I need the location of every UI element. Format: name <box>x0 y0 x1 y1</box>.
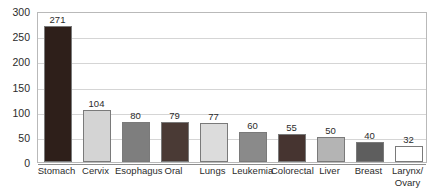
x-tick-label-line1: Stomach <box>38 165 76 176</box>
bar-group: 60 <box>239 13 267 162</box>
y-tick-label: 250 <box>12 32 30 43</box>
x-tick-label-line1: Liver <box>319 165 340 176</box>
bar-group: 40 <box>356 13 384 162</box>
x-tick-label: Cervix <box>76 165 115 177</box>
bar[interactable] <box>161 122 189 162</box>
x-tick-label: Leukemia <box>232 165 271 177</box>
y-tick-label: 150 <box>12 82 30 93</box>
y-tick-label: 100 <box>12 107 30 118</box>
y-tick-label: 200 <box>12 57 30 68</box>
bar-value-label: 50 <box>317 126 345 136</box>
x-tick-label: Colorectal <box>271 165 310 177</box>
bar-value-label: 80 <box>122 111 150 121</box>
x-tick-label: Lungs <box>193 165 232 177</box>
bar-chart: 300250200150100500 271104807977605550403… <box>0 0 445 196</box>
x-tick-label: Larynx/Ovary <box>388 165 427 188</box>
bar[interactable] <box>278 134 306 162</box>
x-tick-label-line1: Colorectal <box>271 165 314 176</box>
bar-value-label: 55 <box>278 123 306 133</box>
bar-group: 80 <box>122 13 150 162</box>
x-tick-label: Liver <box>310 165 349 177</box>
bar-group: 50 <box>317 13 345 162</box>
x-tick-label-line1: Cervix <box>82 165 109 176</box>
x-axis: StomachCervixEsophagusOralLungsLeukemiaC… <box>37 165 427 196</box>
x-tick-label-line1: Lungs <box>200 165 226 176</box>
x-tick-label-line1: Leukemia <box>232 165 273 176</box>
y-axis: 300250200150100500 <box>0 0 34 196</box>
bar-group: 77 <box>200 13 228 162</box>
bar-group: 271 <box>44 13 72 162</box>
bar[interactable] <box>395 146 423 162</box>
plot-area: 2711048079776055504032 <box>37 12 427 163</box>
bar[interactable] <box>122 122 150 162</box>
bar-value-label: 79 <box>161 111 189 121</box>
bar-group: 104 <box>83 13 111 162</box>
bar[interactable] <box>239 132 267 162</box>
x-tick-label-line1: Breast <box>355 165 382 176</box>
bar-value-label: 40 <box>356 131 384 141</box>
bar-value-label: 104 <box>83 99 111 109</box>
bar-value-label: 271 <box>44 15 72 25</box>
bar-value-label: 60 <box>239 121 267 131</box>
x-tick-label: Stomach <box>37 165 76 177</box>
y-tick-label: 0 <box>24 158 30 169</box>
y-tick-label: 50 <box>18 133 30 144</box>
x-tick-label-line1: Larynx/ <box>392 165 423 176</box>
x-tick-label-line2: Ovary <box>388 177 427 189</box>
bars-layer: 2711048079776055504032 <box>38 13 426 162</box>
bar-group: 55 <box>278 13 306 162</box>
bar-group: 32 <box>395 13 423 162</box>
bar-value-label: 32 <box>395 135 423 145</box>
x-tick-label: Breast <box>349 165 388 177</box>
bar[interactable] <box>317 137 345 162</box>
bar[interactable] <box>83 110 111 162</box>
x-tick-label: Esophagus <box>115 165 154 177</box>
bar[interactable] <box>200 123 228 162</box>
y-tick-label: 300 <box>12 7 30 18</box>
bar-group: 79 <box>161 13 189 162</box>
x-tick-label-line1: Oral <box>165 165 183 176</box>
bar-value-label: 77 <box>200 112 228 122</box>
bar[interactable] <box>44 26 72 162</box>
bar[interactable] <box>356 142 384 162</box>
x-tick-label: Oral <box>154 165 193 177</box>
